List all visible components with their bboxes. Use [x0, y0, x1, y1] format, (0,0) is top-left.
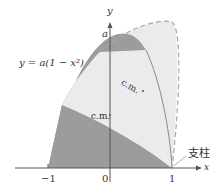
tick-label-zero: 0 — [102, 174, 108, 184]
support-label: 支柱 — [188, 148, 210, 159]
parabola-pivot-diagram: y a y = a(1 − x²) c.m. c.m. 支柱 x −1 0 1 — [0, 0, 223, 191]
x-axis-arrow-icon — [196, 166, 202, 171]
y-axis-arrow-icon — [108, 22, 113, 28]
cm-label-original: c.m. — [91, 112, 110, 121]
tick-label-neg-one: −1 — [41, 174, 56, 184]
diagram-graphic — [0, 0, 223, 191]
peak-label: a — [102, 29, 108, 39]
cm-dot-rotated — [142, 90, 144, 92]
tick-label-one: 1 — [169, 174, 175, 184]
y-axis-label: y — [107, 6, 113, 16]
x-axis-label: x — [204, 163, 209, 172]
equation-label: y = a(1 − x²) — [19, 58, 84, 68]
support-pointer-line — [174, 156, 186, 166]
